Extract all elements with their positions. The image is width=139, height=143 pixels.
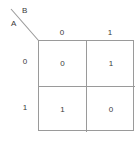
column-header-0: 0 <box>38 29 86 37</box>
table-cell-r0c1: 1 <box>87 41 135 87</box>
row-header-0: 0 <box>16 58 34 66</box>
row-header-1: 1 <box>16 104 34 112</box>
truth-table-diagram: B A 0 1 0 1 0 1 1 0 <box>0 0 139 143</box>
column-header-1: 1 <box>86 29 134 37</box>
table-cell-r1c0: 1 <box>39 87 87 132</box>
column-variable-label: B <box>22 7 28 15</box>
table-grid: 0 1 1 0 <box>38 40 134 131</box>
table-cell-r1c1: 0 <box>87 87 135 132</box>
row-variable-label: A <box>11 20 17 28</box>
table-cell-r0c0: 0 <box>39 41 87 87</box>
